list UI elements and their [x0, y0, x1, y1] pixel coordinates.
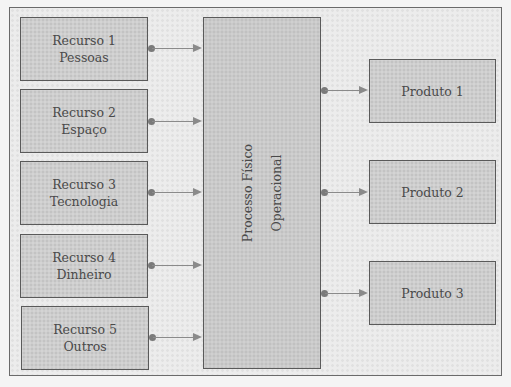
resource-title: Recurso 2: [52, 104, 116, 121]
product-box-1: Produto 1: [369, 59, 496, 123]
resource-subtitle: Tecnologia: [50, 193, 118, 210]
arrow-head-icon: [359, 86, 368, 94]
arrow-head-icon: [359, 188, 368, 196]
resource-title: Recurso 3: [52, 176, 116, 193]
product-box-3: Produto 3: [369, 261, 496, 325]
arrow-head-icon: [193, 188, 202, 196]
process-box: Processo Físico Operacional: [203, 17, 321, 369]
arrow-process-to-product-3: [321, 289, 368, 298]
arrow-resource-4-to-process: [148, 261, 202, 270]
resource-subtitle: Pessoas: [59, 49, 108, 66]
resource-title: Recurso 4: [52, 249, 116, 266]
product-label: Produto 2: [401, 184, 463, 201]
resource-subtitle: Outros: [63, 338, 106, 355]
arrow-head-icon: [193, 261, 202, 269]
arrow-head-icon: [359, 289, 368, 297]
resource-box-3: Recurso 3 Tecnologia: [20, 161, 148, 225]
resource-subtitle: Espaço: [61, 121, 107, 138]
resource-box-2: Recurso 2 Espaço: [20, 89, 148, 153]
resource-subtitle: Dinheiro: [56, 266, 111, 283]
arrow-head-icon: [193, 117, 202, 125]
product-label: Produto 3: [401, 285, 463, 302]
arrow-resource-2-to-process: [148, 117, 202, 126]
resource-box-5: Recurso 5 Outros: [21, 306, 149, 370]
product-box-2: Produto 2: [369, 160, 496, 224]
resource-box-4: Recurso 4 Dinheiro: [20, 234, 148, 298]
process-label-line1: Processo Físico: [239, 144, 256, 242]
arrow-head-icon: [193, 44, 202, 52]
resource-box-1: Recurso 1 Pessoas: [20, 17, 148, 81]
resource-title: Recurso 5: [53, 321, 117, 338]
process-label-line2: Operacional: [268, 144, 285, 242]
arrow-process-to-product-1: [321, 86, 368, 95]
arrow-head-icon: [193, 333, 202, 341]
arrow-resource-3-to-process: [148, 188, 202, 197]
arrow-resource-5-to-process: [149, 333, 202, 342]
arrow-process-to-product-2: [321, 188, 368, 197]
product-label: Produto 1: [401, 83, 463, 100]
arrow-resource-1-to-process: [148, 44, 202, 53]
process-label: Processo Físico Operacional: [239, 144, 285, 242]
resource-title: Recurso 1: [52, 32, 116, 49]
